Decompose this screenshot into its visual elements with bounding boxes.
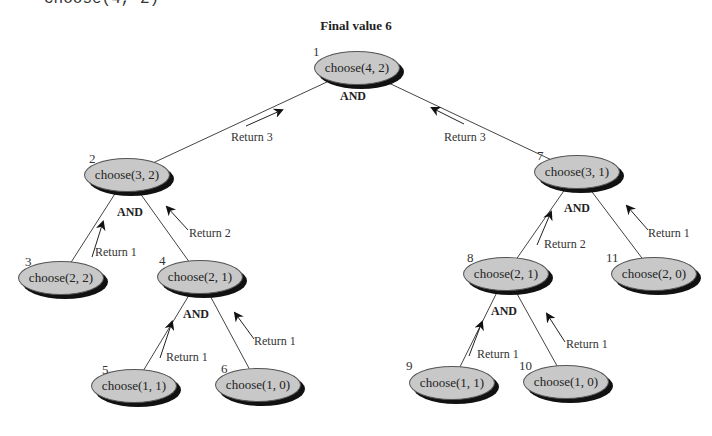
return-arrows (92, 108, 648, 358)
node-label: choose(2, 0) (611, 257, 697, 291)
and-label: AND (340, 89, 366, 104)
return-label: Return 3 (231, 130, 273, 145)
tree-node: choose(2, 1) (463, 257, 549, 291)
return-label: Return 1 (477, 347, 519, 362)
return-label: Return 1 (166, 350, 208, 365)
return-label: Return 1 (95, 245, 137, 260)
node-number: 11 (606, 250, 619, 266)
node-number: 6 (221, 361, 228, 377)
return-arrow-icon (167, 207, 188, 230)
tree-node: choose(1, 1) (409, 366, 495, 400)
return-arrow-icon (547, 314, 565, 342)
tree-node: choose(2, 0) (611, 257, 697, 291)
node-number: 9 (406, 358, 413, 374)
node-number: 1 (313, 44, 320, 60)
return-label: Return 2 (189, 226, 231, 241)
node-label: choose(3, 2) (84, 158, 170, 192)
tree-node: choose(4, 2) (314, 51, 400, 85)
node-number: 7 (537, 148, 544, 164)
return-arrow-icon (627, 206, 648, 230)
node-label: choose(2, 1) (157, 260, 243, 294)
tree-node: choose(3, 1) (534, 155, 620, 189)
node-label: choose(1, 1) (409, 366, 495, 400)
node-number: 2 (89, 151, 96, 167)
return-arrow-icon (235, 313, 254, 339)
node-number: 10 (519, 358, 532, 374)
tree-node: choose(1, 0) (523, 365, 609, 399)
return-label: Return 2 (544, 237, 586, 252)
node-number: 8 (467, 250, 474, 266)
node-label: choose(2, 1) (463, 257, 549, 291)
return-label: Return 1 (648, 226, 690, 241)
node-number: 5 (102, 362, 109, 378)
and-label: AND (117, 205, 143, 220)
node-label: choose(4, 2) (314, 51, 400, 85)
return-label: Return 1 (566, 337, 608, 352)
node-number: 3 (25, 254, 32, 270)
return-label: Return 1 (254, 334, 296, 349)
node-label: choose(1, 0) (523, 365, 609, 399)
tree-node: choose(3, 2) (84, 158, 170, 192)
node-number: 4 (159, 253, 166, 269)
tree-node: choose(2, 1) (157, 260, 243, 294)
return-label: Return 3 (444, 130, 486, 145)
and-label: AND (564, 201, 590, 216)
node-label: choose(3, 1) (534, 155, 620, 189)
return-arrow-icon (246, 110, 282, 126)
and-label: AND (183, 307, 209, 322)
and-label: AND (491, 304, 517, 319)
